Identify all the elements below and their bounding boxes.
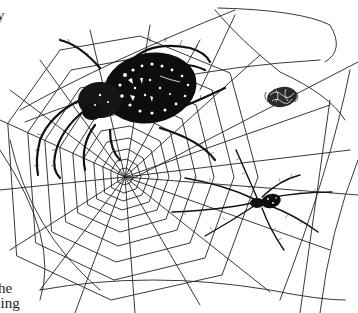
text-fragment-bottom-line-1: he bbox=[0, 281, 12, 296]
small-spider bbox=[172, 150, 332, 250]
text-fragment-top: y bbox=[0, 8, 5, 23]
spider-web-illustration bbox=[0, 0, 358, 313]
wrapped-prey bbox=[265, 85, 299, 110]
illustration-canvas: y he ding bbox=[0, 0, 358, 313]
text-fragment-bottom-line-2: ding bbox=[0, 296, 20, 311]
